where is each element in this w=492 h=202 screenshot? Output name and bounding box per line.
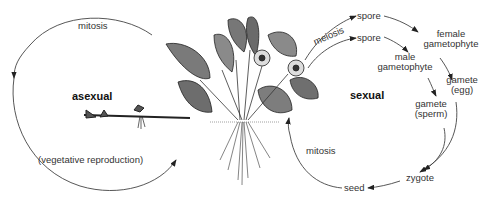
spore-to-female-gametophyte-arrow — [384, 16, 418, 32]
gamete-egg-line2: (egg) — [440, 85, 484, 95]
female-gametophyte-label: female gametophyte — [416, 29, 486, 49]
male-gametophyte-label: male gametophyte — [370, 52, 440, 72]
runner-illustration — [84, 105, 190, 129]
zygote-to-seed-arrow — [368, 181, 400, 188]
female-gametophyte-line2: gametophyte — [416, 39, 486, 49]
leaf — [214, 34, 234, 72]
leaf — [178, 81, 212, 113]
asexual-mitosis-label: mitosis — [78, 21, 108, 31]
seed-label: seed — [344, 183, 365, 193]
leaf — [258, 86, 292, 113]
leaf — [268, 32, 297, 56]
vegetative-reproduction-label: (vegetative reproduction) — [38, 155, 143, 165]
sperm-to-zygote-arrow — [424, 128, 445, 170]
zygote-label: zygote — [406, 173, 434, 183]
gamete-egg-label: gamete (egg) — [440, 75, 484, 95]
spore-female-label: spore — [357, 11, 381, 21]
spore-male-label: spore — [357, 33, 381, 43]
leaf — [166, 43, 210, 78]
sexual-mitosis-label: mitosis — [306, 146, 336, 156]
male-gametophyte-to-sperm-arrow — [428, 78, 436, 96]
spore-to-male-gametophyte-arrow — [384, 37, 408, 52]
sexual-title: sexual — [350, 90, 384, 100]
gamete-sperm-label: gamete (sperm) — [406, 99, 456, 119]
gamete-sperm-line2: (sperm) — [406, 109, 456, 119]
leaf — [246, 17, 258, 56]
leaf — [290, 77, 318, 99]
asexual-title: asexual — [72, 91, 112, 101]
strawberry-plant-illustration — [166, 17, 318, 185]
male-gametophyte-line2: gametophyte — [370, 62, 440, 72]
